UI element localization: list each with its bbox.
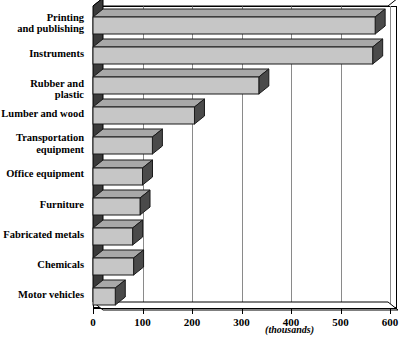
category-label: Rubber and plastic [0,78,84,101]
category-label: Furniture [40,199,84,211]
category-label: Printing and publishing [17,12,84,35]
category-label: Instruments [29,48,84,60]
category-axis-labels: Printing and publishingInstrumentsRubber… [0,0,88,315]
bar [93,198,140,215]
axis-tick [291,308,292,314]
category-label: Office equipment [6,168,84,180]
bar [93,258,134,275]
category-label: Transportation equipment [16,132,84,155]
bar [93,17,375,34]
bar [93,137,152,154]
axis-tick-label: 300 [233,316,250,328]
bar [93,107,194,124]
axis-tick-label: 100 [134,316,151,328]
axis-tick [93,308,94,314]
axis-tick [192,308,193,314]
category-label: Motor vehicles [18,289,84,301]
category-label: Fabricated metals [3,229,84,241]
bar [93,228,133,245]
axis-tick-label: 0 [90,316,96,328]
axis-tick-label: 400 [283,316,300,328]
bar-chart: Printing and publishingInstrumentsRubber… [0,0,406,345]
category-label: Lumber and wood [1,108,84,120]
bar [93,77,259,94]
category-label: Chemicals [37,259,84,271]
bar [93,168,143,185]
bar [93,288,115,305]
value-axis: 0100200300400500600 [0,308,406,345]
bar [93,47,373,64]
axis-tick [242,308,243,314]
axis-tick [390,308,391,314]
axis-line [93,308,397,309]
plot-area [93,6,397,308]
bars-container [93,6,397,308]
axis-tick-label: 200 [184,316,201,328]
axis-tick-label: 600 [382,316,399,328]
axis-tick [143,308,144,314]
axis-tick [341,308,342,314]
axis-tick-label: 500 [332,316,349,328]
